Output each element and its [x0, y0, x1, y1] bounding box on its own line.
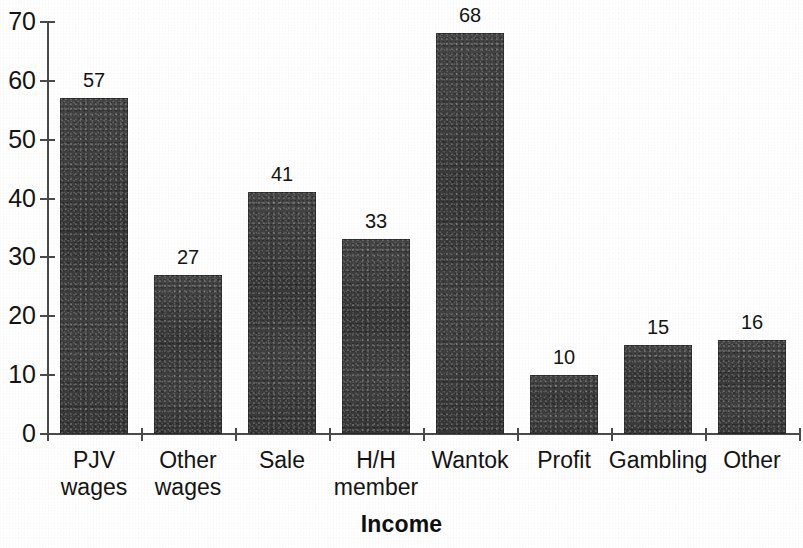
x-axis-tick-0 — [47, 428, 49, 441]
x-category-line-1: Profit — [510, 447, 618, 474]
x-category-line-1: Other — [134, 447, 242, 474]
bar-gambling — [624, 345, 692, 434]
bar-other — [718, 340, 786, 434]
y-axis-tick-20 — [40, 315, 55, 317]
bar-hh-member — [342, 239, 410, 434]
x-category-line-2: wages — [134, 474, 242, 501]
x-category-line-1: Wantok — [416, 447, 524, 474]
bar-wantok — [436, 33, 504, 434]
bar-value-pjv-wages: 57 — [60, 70, 128, 90]
x-category-label-sale: Sale — [228, 447, 336, 474]
bar-pjv-wages — [60, 98, 128, 434]
bar-profit — [530, 375, 598, 434]
x-axis-tick-4 — [423, 428, 425, 441]
y-axis-label-50: 50 — [0, 127, 36, 152]
x-axis-tick-1 — [141, 428, 143, 441]
x-category-line-2: wages — [40, 474, 148, 501]
bar-sale — [248, 192, 316, 434]
x-category-label-hh-member: H/H member — [322, 447, 430, 501]
x-category-line-2: member — [322, 474, 430, 501]
x-category-line-1: Gambling — [604, 447, 712, 474]
bar-value-other: 16 — [718, 312, 786, 332]
bar-chart-figure: 0 10 20 30 40 50 60 70 57 27 — [0, 0, 803, 548]
x-axis-tick-6 — [611, 428, 613, 441]
x-category-label-other-wages: Other wages — [134, 447, 242, 501]
x-axis-title: Income — [0, 511, 803, 538]
y-axis-tick-40 — [40, 198, 55, 200]
y-axis-label-40: 40 — [0, 186, 36, 211]
bar-value-profit: 10 — [530, 347, 598, 367]
y-axis-label-20: 20 — [0, 303, 36, 328]
x-category-line-1: H/H — [322, 447, 430, 474]
x-axis-tick-5 — [517, 428, 519, 441]
y-axis-label-30: 30 — [0, 244, 36, 269]
x-axis-tick-3 — [329, 428, 331, 441]
y-axis-label-60: 60 — [0, 68, 36, 93]
bar-value-sale: 41 — [248, 164, 316, 184]
bar-value-wantok: 68 — [436, 5, 504, 25]
x-category-label-other: Other — [698, 447, 803, 474]
y-axis-tick-60 — [40, 80, 55, 82]
y-axis-label-70: 70 — [0, 9, 36, 34]
y-axis-label-0: 0 — [0, 421, 36, 446]
y-axis-line — [47, 21, 49, 435]
x-axis-tick-2 — [235, 428, 237, 441]
y-axis-label-10: 10 — [0, 362, 36, 387]
x-category-line-1: Other — [698, 447, 803, 474]
y-axis-tick-70 — [40, 21, 55, 23]
y-axis-tick-10 — [40, 374, 55, 376]
bar-value-hh-member: 33 — [342, 211, 410, 231]
plot-area: 0 10 20 30 40 50 60 70 57 27 — [0, 0, 803, 548]
y-axis-tick-50 — [40, 139, 55, 141]
x-category-line-1: Sale — [228, 447, 336, 474]
x-axis-tick-7 — [705, 428, 707, 441]
bar-value-gambling: 15 — [624, 317, 692, 337]
x-category-label-gambling: Gambling — [604, 447, 712, 474]
x-axis-tick-8 — [799, 428, 801, 441]
bar-other-wages — [154, 275, 222, 434]
x-category-label-pjv-wages: PJV wages — [40, 447, 148, 501]
x-category-label-wantok: Wantok — [416, 447, 524, 474]
x-category-label-profit: Profit — [510, 447, 618, 474]
bar-value-other-wages: 27 — [154, 247, 222, 267]
x-category-line-1: PJV — [40, 447, 148, 474]
y-axis-tick-30 — [40, 256, 55, 258]
